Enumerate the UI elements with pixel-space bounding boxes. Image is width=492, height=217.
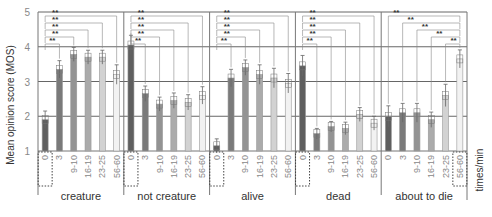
bar	[242, 68, 248, 151]
significance-marker: **	[224, 8, 231, 17]
x-tick-label: 23-25	[441, 155, 451, 178]
x-tick-label: 9-10	[412, 155, 422, 173]
significance-bracket	[45, 44, 59, 59]
x-tick-label: 16-19	[169, 155, 179, 178]
significance-marker: **	[450, 36, 457, 45]
x-tick-label: 23-25	[183, 155, 193, 178]
bar	[114, 75, 120, 151]
significance-marker: **	[436, 29, 443, 38]
significance-marker: **	[422, 22, 429, 31]
significance-marker: **	[52, 8, 59, 17]
group-label: dead	[326, 190, 350, 202]
x-axis-unit-label: times/min	[470, 145, 488, 195]
x-tick-label: 0	[298, 155, 308, 160]
bar	[85, 57, 91, 151]
bar	[300, 66, 306, 151]
y-tick-label: 3	[24, 77, 30, 88]
x-tick-label: 3	[140, 155, 150, 160]
significance-bracket	[217, 44, 231, 67]
x-tick-label: 0	[126, 155, 136, 160]
bar	[257, 75, 263, 151]
bar	[271, 78, 277, 151]
x-tick-label: 9-10	[240, 155, 250, 173]
x-tick-label: 9-10	[69, 155, 79, 173]
x-tick-label: 0	[40, 155, 50, 160]
x-axis-unit-text: times/min	[474, 149, 485, 192]
bar	[142, 94, 148, 151]
x-tick-label: 3	[226, 155, 236, 160]
x-tick-label: 9-10	[155, 155, 165, 173]
y-tick-label: 1	[24, 146, 30, 157]
x-tick-label: 16-19	[255, 155, 265, 178]
significance-marker: **	[393, 8, 400, 17]
bar	[157, 104, 163, 151]
significance-marker: **	[138, 8, 145, 17]
x-tick-label: 3	[398, 155, 408, 160]
x-tick-label: 16-19	[340, 155, 350, 178]
chart-canvas: 12345039-1016-1923-2556-60**********crea…	[0, 0, 492, 217]
bar	[99, 57, 105, 151]
x-tick-label: 56-60	[197, 155, 207, 178]
x-tick-label: 23-25	[269, 155, 279, 178]
x-tick-label: 56-60	[455, 155, 465, 178]
y-axis-label-text: Mean opinion score (MOS)	[5, 45, 16, 165]
bar	[128, 45, 134, 151]
x-tick-label: 9-10	[326, 155, 336, 173]
x-tick-label: 3	[54, 155, 64, 160]
x-tick-label: 56-60	[369, 155, 379, 178]
significance-marker: **	[309, 8, 316, 17]
y-tick-label: 4	[24, 42, 30, 53]
x-tick-label: 23-25	[97, 155, 107, 178]
x-tick-label: 16-19	[426, 155, 436, 178]
bar	[71, 54, 77, 151]
significance-marker: **	[408, 15, 415, 24]
x-tick-label: 56-60	[112, 155, 122, 178]
group-label: alive	[241, 190, 264, 202]
bar	[228, 78, 234, 151]
group-label: about to die	[395, 190, 453, 202]
bar	[56, 69, 62, 151]
bar	[285, 83, 291, 151]
bar	[457, 59, 463, 151]
x-tick-label: 23-25	[355, 155, 365, 178]
x-tick-label: 56-60	[283, 155, 293, 178]
y-tick-label: 5	[24, 7, 30, 18]
x-tick-label: 3	[312, 155, 322, 160]
mos-bar-chart: 12345039-1016-1923-2556-60**********crea…	[0, 0, 492, 217]
x-tick-label: 0	[212, 155, 222, 160]
x-tick-label: 0	[383, 155, 393, 160]
y-axis-label: Mean opinion score (MOS)	[2, 20, 18, 190]
y-tick-label: 2	[24, 111, 30, 122]
x-tick-label: 16-19	[83, 155, 93, 178]
group-label: creature	[61, 190, 101, 202]
group-label: not creature	[137, 190, 196, 202]
